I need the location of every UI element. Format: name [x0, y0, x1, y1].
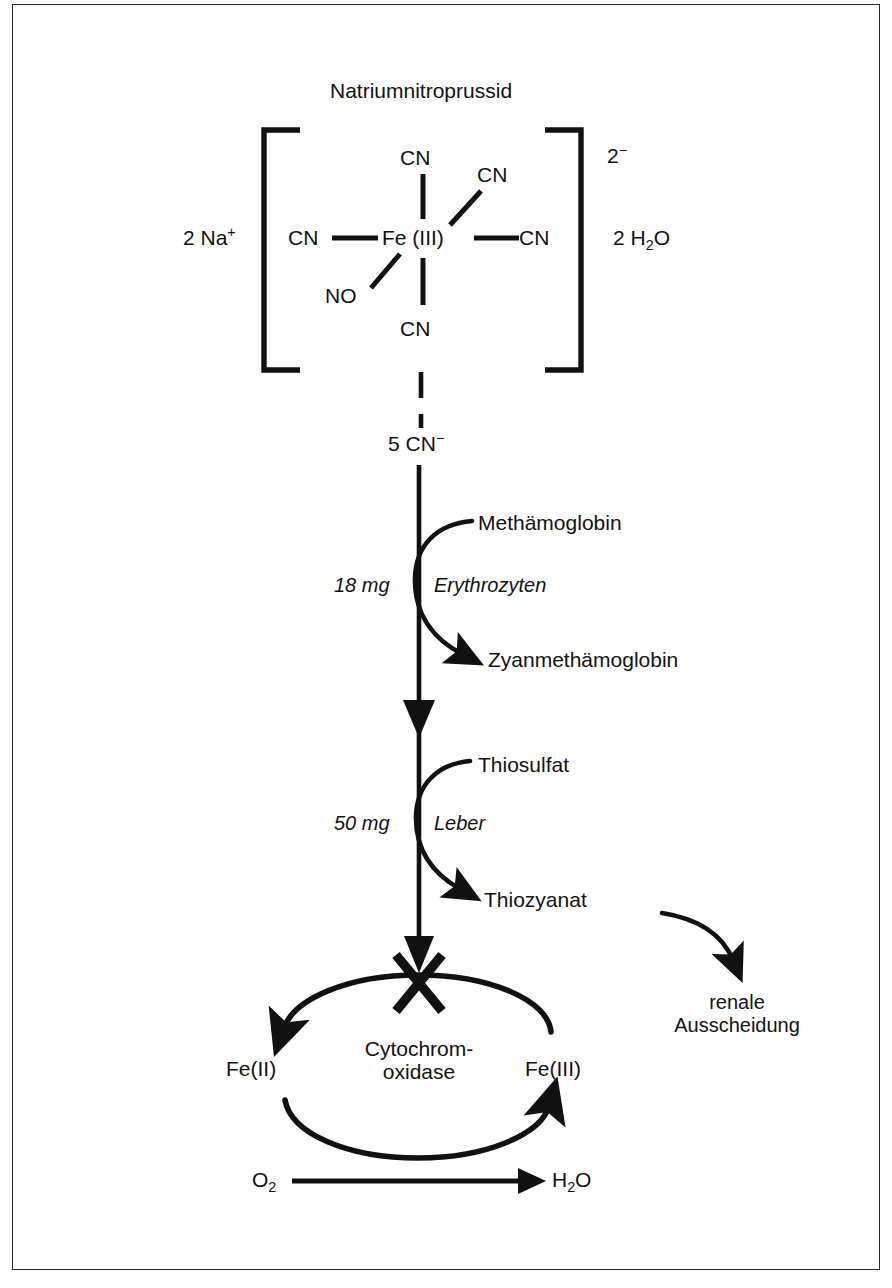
site-erythrocyte: Erythrozyten [434, 574, 546, 596]
substrate-thiosulfate: Thiosulfat [478, 753, 569, 777]
metal-center-label: Fe (III) [382, 226, 444, 250]
dose-liver: 50 mg [334, 812, 390, 834]
figure-page: Natriumnitroprussid 2 Na+ 2− 2 H2O CN CN… [0, 0, 892, 1288]
diagram-canvas [0, 0, 892, 1288]
hydrate-count: 2 H [613, 226, 646, 249]
product-thiocyanate: Thiozyanat [484, 888, 587, 912]
product-water: H2O [552, 1168, 591, 1192]
hydrate-oxygen: O [654, 226, 670, 249]
bracket-left-icon [264, 130, 300, 370]
ligand-cn-left: CN [288, 226, 318, 250]
hydrate-subscript: 2 [646, 237, 654, 253]
oxygen-symbol: O [252, 1168, 268, 1191]
substrate-methemoglobin: Methämoglobin [478, 511, 622, 535]
hydrate-label: 2 H2O [613, 226, 670, 250]
enzyme-label-line1: Cytochrom- [340, 1037, 498, 1061]
enzyme-label-line2: oxidase [340, 1060, 498, 1084]
charge-sign: − [619, 142, 627, 158]
ligand-no-lower-left: NO [325, 284, 357, 308]
site-liver: Leber [434, 812, 485, 834]
renal-excretion-line2: Ausscheidung [660, 1014, 814, 1036]
figure-title: Natriumnitroprussid [330, 79, 512, 103]
oxygen-subscript: 2 [268, 1179, 276, 1195]
iron-state-left: Fe(II) [226, 1057, 276, 1081]
water-oxygen: O [575, 1168, 591, 1191]
bracket-right-icon [545, 130, 581, 370]
ligand-cn-upper-right: CN [477, 163, 507, 187]
renal-excretion-arrow [662, 913, 733, 960]
product-cyanmethemoglobin: Zyanmethämoglobin [488, 648, 678, 672]
cycle-bottom-arrow [285, 1100, 549, 1158]
ligand-cn-bottom: CN [400, 317, 430, 341]
released-species: CN [406, 432, 436, 455]
cation-charge: + [227, 224, 235, 240]
renal-excretion-line1: renale [660, 991, 814, 1013]
ligand-cn-top: CN [400, 146, 430, 170]
oxygen-to-water-arrow [292, 1168, 546, 1194]
released-cyanide-label: 5 CN− [388, 432, 444, 456]
complex-charge-label: 2− [607, 144, 627, 168]
released-charge: − [436, 430, 444, 446]
ligand-cn-right: CN [519, 226, 549, 250]
reactant-oxygen: O2 [252, 1168, 276, 1192]
water-subscript: 2 [567, 1179, 575, 1195]
charge-number: 2 [607, 144, 619, 167]
iron-state-right: Fe(III) [525, 1057, 581, 1081]
cation-text: 2 Na [183, 226, 227, 249]
released-count: 5 [388, 432, 400, 455]
cation-label: 2 Na+ [183, 226, 236, 250]
water-hydrogen: H [552, 1168, 567, 1191]
dose-erythrocyte: 18 mg [334, 574, 390, 596]
